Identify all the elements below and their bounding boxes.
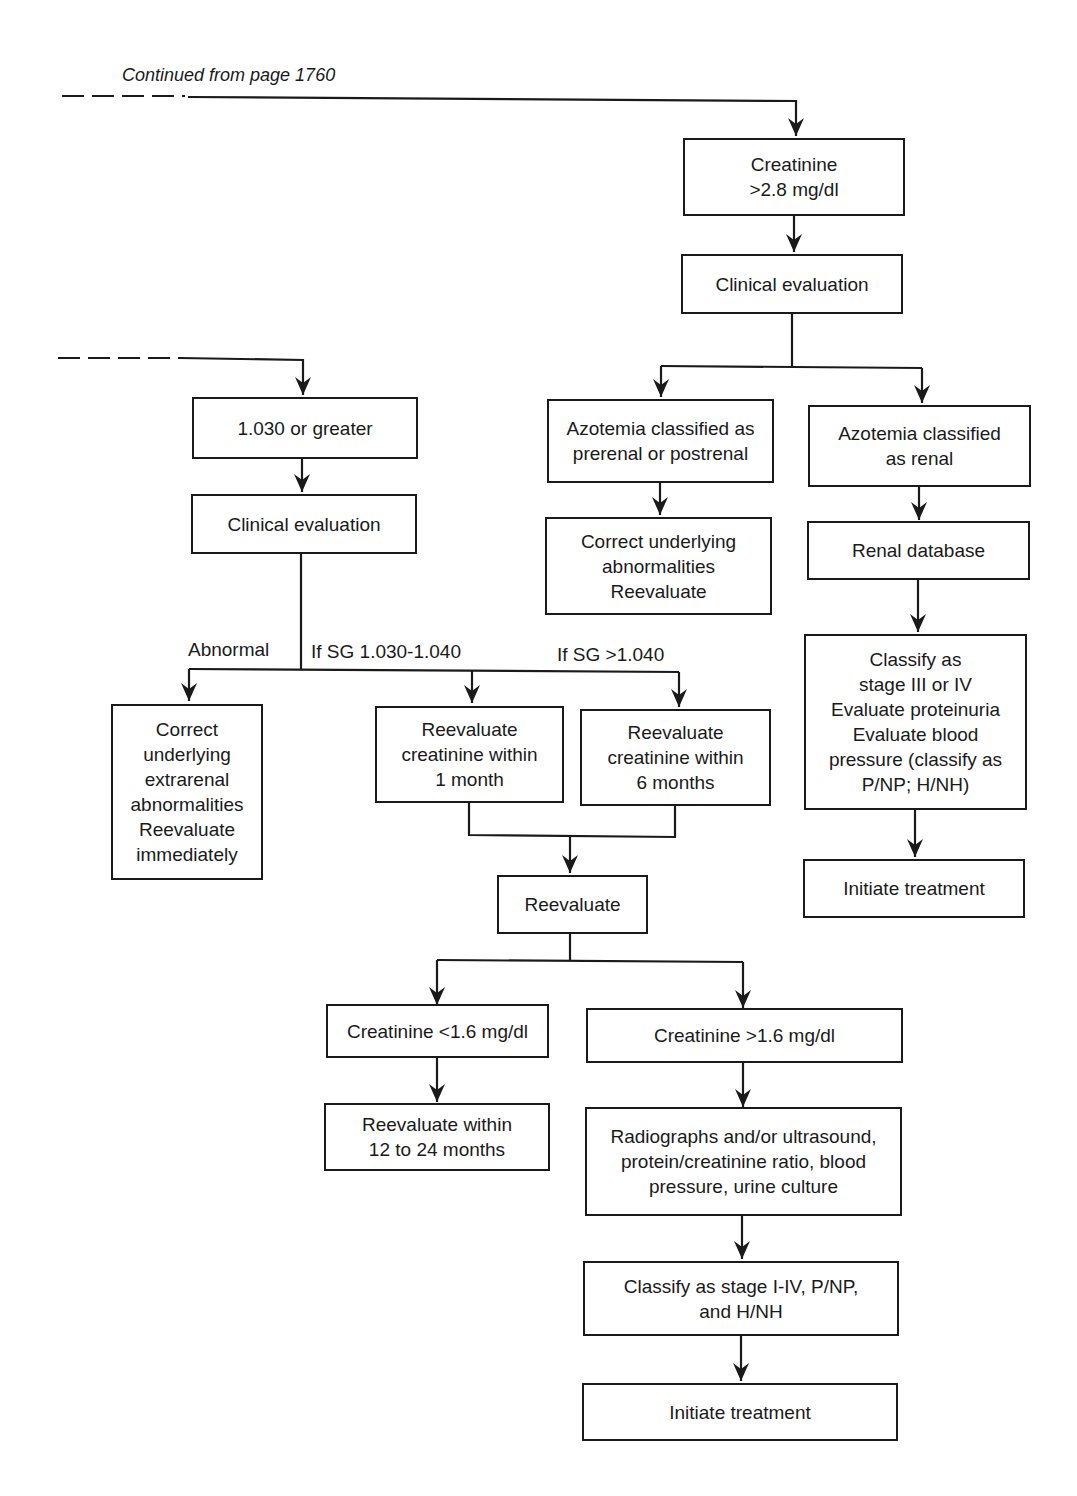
node-creatinine-low: Creatinine <1.6 mg/dl (326, 1004, 549, 1058)
node-reevaluate-12-24-months: Reevaluate within 12 to 24 months (324, 1103, 550, 1171)
node-classify-stage-1-4: Classify as stage I-IV, P/NP, and H/NH (583, 1261, 899, 1336)
label-abnormal: Abnormal (188, 639, 269, 661)
label-sg-range: If SG 1.030-1.040 (311, 641, 461, 663)
node-correct-underlying: Correct underlying abnormalities Reevalu… (545, 517, 772, 615)
node-reevaluate-6-months: Reevaluate creatinine within 6 months (580, 709, 771, 806)
node-renal-database: Renal database (807, 521, 1030, 580)
node-clinical-evaluation-left: Clinical evaluation (191, 494, 417, 554)
node-initiate-treatment-right: Initiate treatment (803, 859, 1025, 918)
node-azotemia-prerenal: Azotemia classified as prerenal or postr… (547, 399, 774, 483)
node-creatinine-high: Creatinine >2.8 mg/dl (683, 138, 905, 216)
node-clinical-evaluation-right: Clinical evaluation (681, 254, 903, 314)
node-classify-stage-3-4: Classify as stage III or IV Evaluate pro… (804, 634, 1027, 810)
node-creatinine-mid: Creatinine >1.6 mg/dl (586, 1008, 903, 1063)
node-correct-extrarenal: Correct underlying extrarenal abnormalit… (111, 704, 263, 880)
node-azotemia-renal: Azotemia classified as renal (808, 405, 1031, 487)
continuation-label: Continued from page 1760 (122, 64, 335, 86)
node-reevaluate-1-month: Reevaluate creatinine within 1 month (375, 706, 564, 803)
node-reevaluate: Reevaluate (497, 875, 648, 934)
node-diagnostics: Radiographs and/or ultrasound, protein/c… (585, 1107, 902, 1216)
flowchart-canvas: Continued from page 1760 Creatinine >2.8… (0, 0, 1077, 1496)
label-sg-high: If SG >1.040 (557, 644, 664, 666)
node-initiate-treatment-left: Initiate treatment (582, 1383, 898, 1441)
node-sg-1030-or-greater: 1.030 or greater (192, 397, 418, 459)
